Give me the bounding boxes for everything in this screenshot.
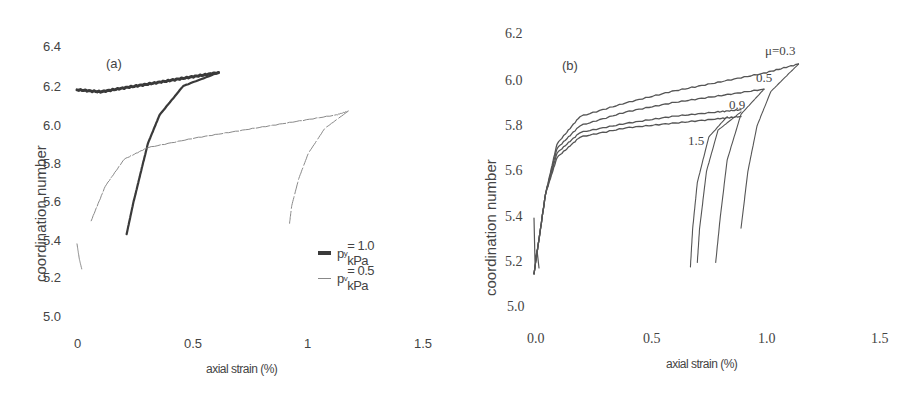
curve-1kpa-unloading (127, 73, 219, 235)
curve-μ=0.5-loading (534, 89, 764, 274)
curve-05kpa-unloading (289, 111, 348, 225)
curve-05kpa-loading (91, 111, 348, 221)
curves-panel-b (534, 64, 799, 274)
curve-1kpa-loading (77, 73, 219, 93)
curve-μ=0.5-unloading (716, 89, 764, 262)
curve-μ=1.5-unloading (690, 117, 727, 268)
plot-curves (0, 0, 913, 408)
curves-panel-a (77, 73, 348, 269)
curve-μ=0.3-unloading (741, 64, 799, 228)
curve-05kpa-initial (77, 244, 82, 269)
